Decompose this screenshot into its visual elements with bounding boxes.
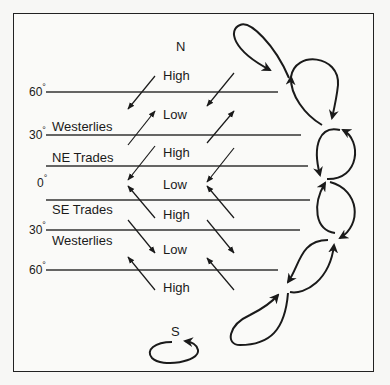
arrow-se-r1 [207,220,234,253]
arrow-nw-r2 [207,258,234,290]
ferrel-cell-north-a [291,77,322,125]
wind-arrows-right [207,73,234,290]
arrow-sw-2 [128,146,155,180]
polar-cell-north [234,24,289,78]
wind-belt-westerlies-north: Westerlies [52,120,112,133]
south-pole-label: S [171,325,180,338]
lat-label-30s: 30° [29,224,46,236]
wind-belt-ne-trades: NE Trades [52,151,113,164]
arrow-sw-r1 [207,73,234,106]
lat-label-60s: 60° [29,264,46,276]
wind-belt-se-trades: SE Trades [52,203,113,216]
arrow-se-1 [128,220,155,253]
ferrel-cell-south-b [290,245,334,292]
arrow-nw-1 [128,186,155,218]
wind-arrows-left [128,76,155,290]
lat-label-30n: 30° [29,129,46,141]
pressure-high-2: High [163,146,190,159]
pressure-low-2: Low [163,178,187,191]
hadley-cell-north-a [317,129,340,175]
pressure-high-3: High [163,208,190,221]
pressure-low-3: Low [163,243,187,256]
pressure-high-1: High [163,69,190,82]
arrow-nw-2 [128,257,155,290]
arrow-sw-r2 [207,148,234,182]
hadley-cell-south-b [317,183,335,233]
polar-cell-south [231,293,288,345]
south-pole-vortex [150,341,198,363]
arrow-ne-r1 [207,111,234,143]
wind-belt-westerlies-south: Westerlies [52,234,112,247]
lat-label-0: 0° [37,177,47,189]
hadley-cell-south-a [330,182,355,238]
lat-label-60n: 60° [29,86,46,98]
hadley-cell-north-b [327,130,355,179]
arrow-nw-r1 [207,186,234,218]
pressure-high-4: High [163,281,190,294]
pressure-low-1: Low [163,108,187,121]
ferrel-cell-north-b [291,59,338,118]
global-circulation-diagram [0,0,390,385]
north-pole-label: N [176,40,185,53]
arrow-ne-1 [128,111,155,145]
